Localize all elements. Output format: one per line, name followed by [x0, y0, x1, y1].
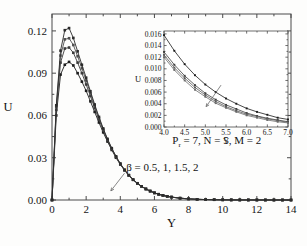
main-series-marker	[247, 199, 250, 202]
main-series-marker	[162, 194, 165, 197]
main-yaxis-label: U	[3, 100, 12, 114]
inset-series-marker	[173, 69, 175, 71]
main-series-marker	[68, 46, 71, 49]
main-xtick-label: 14	[286, 203, 298, 215]
main-series-marker	[102, 127, 105, 130]
inset-series-marker	[204, 96, 206, 98]
main-series-marker	[170, 196, 173, 199]
inset-series-marker	[184, 77, 186, 79]
inset-series-marker	[235, 103, 237, 105]
main-series-marker	[273, 199, 276, 202]
inset-series-marker	[204, 94, 206, 96]
main-series-marker	[76, 61, 79, 64]
inset-series-marker	[194, 89, 196, 91]
main-xtick-label: 2	[83, 203, 89, 215]
inset-series-marker	[287, 122, 289, 124]
inset-series-marker	[184, 75, 186, 77]
inset-xtick-label: 6.0	[242, 128, 252, 137]
main-xtick-label: 0	[49, 203, 55, 215]
inset-series-marker	[204, 92, 206, 94]
main-series-marker	[110, 147, 113, 150]
main-series-marker	[213, 198, 216, 201]
inset-xaxis-label: Y	[223, 136, 229, 146]
main-xtick-label: 6	[152, 203, 158, 215]
inset-series-marker	[225, 98, 227, 100]
main-series-marker	[72, 64, 75, 67]
inset-series-marker	[266, 119, 268, 121]
main-series-marker	[196, 198, 199, 201]
inset-series-marker	[163, 34, 165, 36]
main-series-marker	[136, 182, 139, 185]
main-series-marker	[290, 199, 293, 202]
inset-ytick-label: 0.016	[145, 30, 162, 39]
main-series-marker	[81, 63, 84, 66]
inset-series-marker	[194, 84, 196, 86]
main-series-marker	[81, 72, 84, 75]
inset-series-marker	[256, 111, 258, 113]
main-series-marker	[145, 188, 148, 191]
inset-series-marker	[246, 107, 248, 109]
inset-series-marker	[163, 54, 165, 56]
inset-ytick-label: 0.010	[145, 64, 162, 73]
main-series-marker	[72, 37, 75, 40]
inset-xtick-label: 4.5	[180, 128, 190, 137]
inset-series-marker	[256, 117, 258, 119]
main-series-marker	[149, 190, 152, 193]
main-series-marker	[230, 199, 233, 202]
inset-series-marker	[184, 63, 186, 65]
main-series-marker	[187, 198, 190, 201]
main-series-marker	[85, 90, 88, 93]
main-series-marker	[106, 138, 109, 141]
inset-series-marker	[194, 74, 196, 76]
inset-ytick-label: 0.008	[145, 76, 162, 85]
inset-yaxis-label: U	[135, 74, 141, 84]
inset-ytick-label: 0.014	[145, 41, 162, 50]
main-series-marker	[179, 197, 182, 200]
inset-xtick-label: 7.0	[283, 128, 293, 137]
main-xtick-label: 10	[217, 203, 229, 215]
main-series-marker	[153, 192, 156, 195]
inset-series-marker	[163, 56, 165, 58]
main-series-marker	[51, 199, 54, 202]
inset-series-marker	[235, 111, 237, 113]
beta-annotation: β = 0.5, 1, 1.5, 2	[126, 161, 198, 173]
main-series-marker	[89, 90, 92, 93]
main-series-marker	[76, 50, 79, 53]
inset-ytick-label: 0.012	[145, 53, 162, 62]
inset-ytick-label: 0.004	[145, 99, 162, 108]
main-series-marker	[93, 103, 96, 106]
figure-container: 024681012140.000.030.060.090.12YUβ = 0.5…	[0, 0, 307, 246]
main-series-marker	[64, 29, 67, 32]
inset-series-marker	[287, 118, 289, 120]
main-series-marker	[98, 116, 101, 119]
main-series-marker	[119, 162, 122, 165]
main-series-marker	[204, 198, 207, 201]
inset-series-marker	[204, 84, 206, 86]
main-series-marker	[59, 49, 62, 52]
main-series-marker	[76, 72, 79, 75]
main-series-marker	[55, 104, 58, 107]
main-series-marker	[72, 51, 75, 54]
main-series-marker	[115, 155, 118, 158]
main-series-marker	[264, 199, 267, 202]
main-series-marker	[132, 178, 135, 181]
main-series-marker	[64, 47, 67, 50]
inset-series-marker	[235, 108, 237, 110]
inset-ytick-label: 0.000	[145, 123, 162, 132]
main-series-marker	[64, 63, 67, 66]
main-series-marker	[72, 44, 75, 47]
inset-series-marker	[173, 50, 175, 52]
inset-xtick-label: 5.0	[201, 128, 211, 137]
inset-series-marker	[277, 121, 279, 123]
inset-plot-background	[164, 31, 288, 127]
inset-ytick-label: 0.006	[145, 88, 162, 97]
main-ytick-label: 0.00	[28, 194, 48, 206]
main-xtick-label: 4	[118, 203, 124, 215]
main-series-marker	[68, 37, 71, 40]
main-series-marker	[68, 61, 71, 64]
inset-series-marker	[173, 64, 175, 66]
main-series-marker	[81, 80, 84, 83]
main-series-marker	[238, 199, 241, 202]
inset-series-marker	[246, 114, 248, 116]
main-series-marker	[281, 199, 284, 202]
